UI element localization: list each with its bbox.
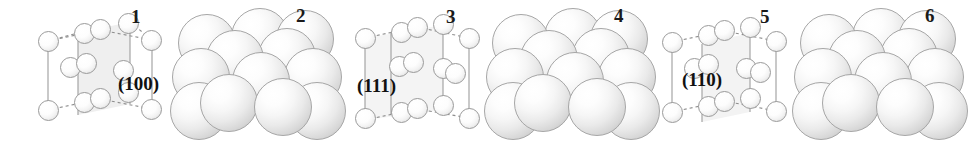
atom: [38, 100, 59, 121]
atom: [407, 98, 428, 119]
atom: [141, 30, 162, 51]
atom: [714, 91, 735, 112]
miller-index-label-1: (100): [118, 74, 159, 93]
sphere: [822, 74, 880, 132]
miller-index-label-5: (110): [682, 70, 722, 89]
atom: [459, 108, 480, 129]
sphere: [568, 78, 626, 136]
atom: [407, 17, 428, 38]
atom: [662, 32, 683, 53]
atom: [750, 62, 771, 83]
atom: [141, 99, 162, 120]
panel-5: (110) 5: [658, 0, 806, 141]
atom: [355, 28, 376, 49]
panel-3: (111) 3: [345, 0, 492, 141]
atom: [662, 102, 683, 123]
atom: [90, 88, 111, 109]
panel-number-1: 1: [131, 7, 141, 26]
atom: [433, 95, 454, 116]
panel-number-6: 6: [925, 6, 935, 25]
atom: [714, 20, 735, 41]
panel-number-5: 5: [760, 7, 770, 26]
atom: [766, 31, 787, 52]
atom: [459, 28, 480, 49]
atom: [445, 63, 466, 84]
sphere: [200, 74, 258, 132]
miller-index-label-3: (111): [357, 76, 396, 95]
panel-number-2: 2: [296, 6, 306, 25]
panel-6: 6: [806, 0, 960, 141]
panel-1: (100) 1: [0, 0, 176, 141]
panel-number-4: 4: [614, 6, 624, 25]
panel-number-3: 3: [446, 7, 456, 26]
atom: [766, 101, 787, 122]
atom: [38, 31, 59, 52]
unit-cell-wireframe-5: [658, 0, 806, 141]
sphere: [254, 78, 312, 136]
sphere: [514, 74, 572, 132]
atom: [740, 88, 761, 109]
atom: [403, 52, 424, 73]
panel-2: 2: [176, 0, 345, 141]
atom: [76, 53, 97, 74]
atom: [90, 19, 111, 40]
atom: [740, 17, 761, 38]
panel-4: 4: [492, 0, 658, 141]
atom: [355, 108, 376, 129]
sphere: [876, 78, 934, 136]
